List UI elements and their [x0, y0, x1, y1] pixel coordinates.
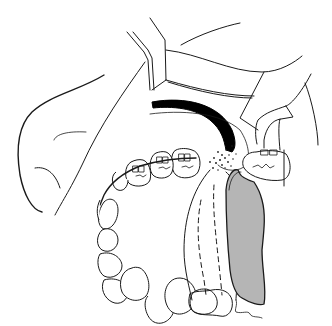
- dental-illustration: [0, 0, 332, 326]
- illustration-canvas: [0, 0, 332, 326]
- grey-appliance: [226, 170, 265, 305]
- black-arch-band: [152, 100, 235, 152]
- right-retractor: [240, 72, 318, 150]
- retracted-cheek: [18, 62, 145, 215]
- bracketed-teeth: [112, 149, 200, 191]
- lower-teeth-row: [97, 199, 217, 323]
- retractor-instrument: [127, 18, 302, 98]
